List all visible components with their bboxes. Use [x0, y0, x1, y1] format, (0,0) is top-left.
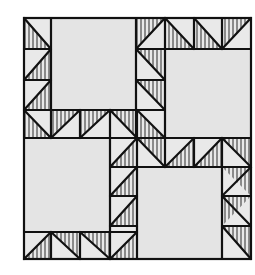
- quilt-figure: Quilt block pattern illustration: [0, 0, 255, 275]
- bottom-left-square: [24, 138, 110, 232]
- quilt-drawing: [0, 0, 255, 275]
- bottom-right-square: [137, 167, 222, 259]
- top-left-square: [51, 18, 136, 110]
- top-right-square: [165, 49, 251, 138]
